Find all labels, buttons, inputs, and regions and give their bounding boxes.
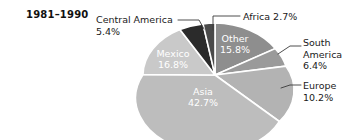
slice-label-africa: Africa 2.7% [243,11,297,23]
slice-label-south-america-line1: South [303,37,331,48]
slice-label-europe-value: 10.2% [303,92,333,103]
slice-label-africa-text: Africa 2.7% [243,11,297,22]
slice-label-central-america-name: Central America [96,14,173,25]
pie-chart-svg [0,0,355,140]
pie-chart-figure: 1981–1990 [0,0,355,140]
slice-label-central-america-value: 5.4% [96,26,120,37]
slice-label-europe-name: Europe [303,80,336,91]
pie-slices [136,23,294,140]
leader-line-south-america [278,46,301,54]
slice-label-europe: Europe 10.2% [303,80,336,103]
slice-label-south-america-value: 6.4% [303,60,327,71]
slice-label-south-america-line2: America [303,49,342,60]
slice-label-south-america: South America 6.4% [303,37,342,72]
pie-chart-stage: Other 15.8% Mexico 16.8% Asia 42.7% Cent… [0,0,355,140]
slice-label-central-america: Central America 5.4% [96,14,173,37]
